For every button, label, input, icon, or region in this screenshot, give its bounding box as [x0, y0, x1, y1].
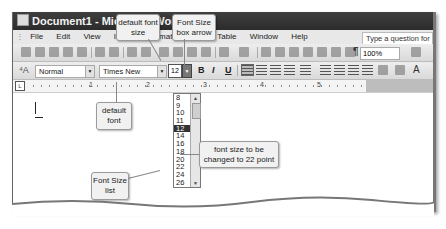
- insert-table-icon[interactable]: [289, 47, 299, 57]
- scroll-up-icon[interactable]: ▲: [191, 94, 200, 102]
- format-painter-icon[interactable]: [201, 47, 211, 57]
- border-icon[interactable]: [378, 65, 388, 75]
- font-box[interactable]: Times New Roman ▼: [99, 65, 158, 78]
- styles-formatting-icon[interactable]: ⁴A: [19, 65, 29, 75]
- print-icon[interactable]: [95, 47, 105, 57]
- scroll-thumb[interactable]: [192, 103, 201, 119]
- standard-toolbar: ¶ 100%: [13, 44, 433, 62]
- show-hide-icon[interactable]: ¶: [353, 46, 359, 57]
- print-preview-icon[interactable]: [109, 47, 119, 57]
- style-dropdown-arrow[interactable]: ▼: [85, 65, 95, 78]
- style-box[interactable]: Normal ▼: [35, 65, 86, 78]
- columns-icon[interactable]: [317, 47, 327, 57]
- highlight-icon[interactable]: [395, 65, 405, 75]
- separator: [215, 47, 216, 58]
- menu-bar: ⋮ File Edit View Insert Format Tools Tab…: [13, 30, 433, 44]
- ruler-ticks: [33, 85, 363, 87]
- title-bar: Document1 - Microsoft Word: [13, 12, 433, 30]
- font-size-scrollbar[interactable]: ▲ ▼: [190, 94, 200, 187]
- email-icon[interactable]: [77, 47, 87, 57]
- numbering-icon[interactable]: [320, 65, 331, 75]
- save-icon[interactable]: [49, 47, 59, 57]
- ruler-number: 5: [317, 81, 321, 88]
- increase-indent-icon[interactable]: [362, 65, 373, 75]
- bold-button[interactable]: B: [198, 65, 205, 75]
- callout-default-font: default font: [96, 102, 132, 130]
- font-size-option[interactable]: 26: [174, 179, 190, 187]
- menu-table[interactable]: Table: [217, 32, 236, 41]
- ruler: L 1 2 3 4 5: [13, 80, 433, 93]
- ruler-number: 4: [260, 81, 264, 88]
- menu-file[interactable]: File: [30, 32, 43, 41]
- font-size-list[interactable]: 8 9 10 11 12 14 16 18 20 22 24 26 ▲ ▼: [173, 93, 201, 188]
- hyperlink-icon[interactable]: [261, 47, 271, 57]
- font-size-box[interactable]: 12: [168, 64, 182, 78]
- insertion-point: [35, 102, 36, 114]
- separator: [91, 47, 92, 58]
- drawing-icon[interactable]: [331, 47, 341, 57]
- ruler-number: 3: [203, 81, 207, 88]
- bullets-icon[interactable]: [334, 65, 345, 75]
- separator: [237, 65, 238, 76]
- torn-page-edge: [12, 196, 434, 216]
- word-window: Document1 - Microsoft Word ⋮ File Edit V…: [12, 12, 436, 212]
- ruler-number: 2: [146, 81, 150, 88]
- callout-font-size-box-arrow: Font Size box arrow: [172, 14, 216, 41]
- font-size-box-arrow[interactable]: ▼: [182, 64, 192, 78]
- tables-borders-icon[interactable]: [275, 47, 285, 57]
- justify-button[interactable]: [284, 65, 295, 75]
- word-app-icon: [17, 14, 29, 26]
- menu-window[interactable]: Window: [250, 32, 278, 41]
- grip-icon: ⋮: [16, 32, 24, 41]
- zoom-box[interactable]: 100%: [360, 47, 400, 60]
- separator: [123, 47, 124, 58]
- font-dropdown-arrow[interactable]: ▼: [157, 65, 167, 78]
- underline-button[interactable]: U: [225, 65, 232, 75]
- tab-selector[interactable]: L: [15, 81, 25, 91]
- end-mark: [35, 117, 43, 118]
- undo-icon[interactable]: [219, 47, 229, 57]
- paste-icon[interactable]: [187, 47, 197, 57]
- align-right-button[interactable]: [270, 65, 281, 75]
- decrease-indent-icon[interactable]: [348, 65, 359, 75]
- open-icon[interactable]: [35, 47, 45, 57]
- help-icon[interactable]: [411, 47, 421, 57]
- separator: [257, 47, 258, 58]
- redo-icon[interactable]: [239, 47, 249, 57]
- line-spacing-icon[interactable]: [300, 65, 311, 75]
- formatting-toolbar: ⁴A Normal ▼ Times New Roman ▼ 12 ▼ B I U…: [13, 62, 433, 80]
- scroll-down-icon[interactable]: ▼: [191, 179, 200, 187]
- insert-excel-icon[interactable]: [303, 47, 313, 57]
- new-icon[interactable]: [21, 47, 31, 57]
- menu-help[interactable]: Help: [291, 32, 307, 41]
- spelling-icon[interactable]: [127, 47, 137, 57]
- callout-default-font-size: default font size: [116, 14, 160, 41]
- callout-leader: [184, 39, 185, 65]
- menu-edit[interactable]: Edit: [56, 32, 70, 41]
- callout-leader: [116, 82, 117, 102]
- permission-icon[interactable]: [63, 47, 73, 57]
- ruler-number: 1: [89, 81, 93, 88]
- italic-button[interactable]: I: [212, 65, 215, 75]
- research-icon[interactable]: [141, 47, 151, 57]
- ruler-margin: [366, 80, 433, 92]
- font-color-icon[interactable]: A: [413, 64, 420, 75]
- cut-icon[interactable]: [159, 47, 169, 57]
- align-left-button[interactable]: [242, 65, 253, 75]
- callout-change-to-22: font size to be changed to 22 point: [199, 141, 279, 168]
- menu-view[interactable]: View: [83, 32, 100, 41]
- copy-icon[interactable]: [173, 47, 183, 57]
- center-button[interactable]: [256, 65, 267, 75]
